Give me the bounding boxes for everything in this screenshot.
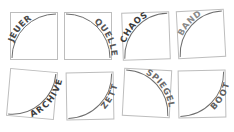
puzzle-tile[interactable]: JEUER bbox=[10, 12, 58, 60]
tile-graphic: ARCHIVE bbox=[6, 68, 58, 120]
tile-word: ZETT bbox=[98, 83, 120, 111]
puzzle-tile[interactable]: SPIEGEL bbox=[122, 68, 172, 118]
tile-graphic: QUELLE bbox=[64, 12, 112, 60]
tile-graphic: BAND bbox=[176, 9, 226, 59]
puzzle-tile[interactable]: BAND bbox=[176, 9, 226, 59]
tile-graphic: ZETT bbox=[66, 72, 115, 121]
tile-word: SPIEGEL bbox=[143, 67, 179, 109]
tile-word: BAND bbox=[174, 8, 204, 38]
tile-graphic: BOOT bbox=[178, 70, 227, 119]
tile-graphic: SPIEGEL bbox=[122, 68, 172, 118]
puzzle-tile[interactable]: BOOT bbox=[178, 70, 227, 119]
tile-word: ARCHIVE bbox=[27, 76, 64, 122]
tile-word: CHAOS bbox=[117, 10, 150, 45]
tile-word: QUELLE bbox=[93, 16, 120, 56]
tile-word: JEUER bbox=[5, 13, 33, 45]
puzzle-tile[interactable]: QUELLE bbox=[64, 12, 112, 60]
puzzle-tile[interactable]: CHAOS bbox=[121, 11, 171, 61]
puzzle-tile[interactable]: ARCHIVE bbox=[6, 68, 58, 120]
tile-graphic: CHAOS bbox=[121, 11, 171, 61]
tile-word: BOOT bbox=[208, 81, 232, 112]
puzzle-tile[interactable]: ZETT bbox=[66, 72, 115, 121]
tile-graphic: JEUER bbox=[10, 12, 58, 60]
